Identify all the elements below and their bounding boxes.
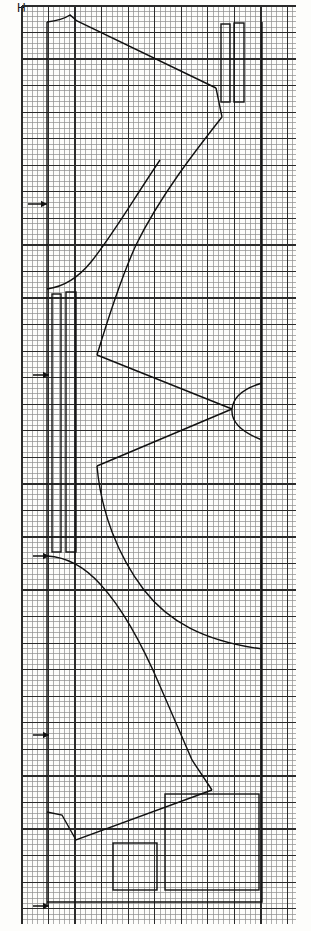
drawing-top-ridge xyxy=(47,15,216,88)
drawing-left-bay-curve xyxy=(47,160,160,289)
graph-paper-sheet: H xyxy=(0,0,311,931)
drawing-mid-bar-left xyxy=(52,294,61,552)
drawing-top-bar-left xyxy=(221,24,230,102)
left-tick-arrow-head-0 xyxy=(41,201,47,207)
drawing-top-bar-right xyxy=(234,23,244,102)
drawing-lower-left-curve xyxy=(47,556,160,686)
technical-drawing-canvas xyxy=(0,0,311,931)
drawing-lower-bay-curve xyxy=(97,466,262,649)
grid-minor-lines xyxy=(22,6,296,924)
drawing-notch-arc-right xyxy=(232,383,262,440)
